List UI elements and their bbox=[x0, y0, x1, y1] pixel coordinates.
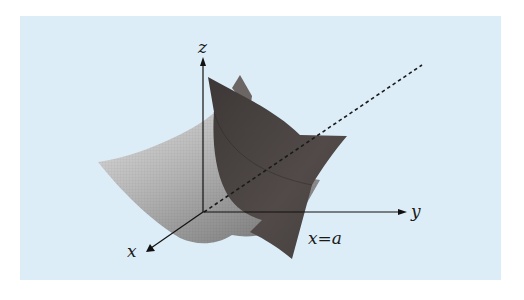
x-axis-arrowhead bbox=[146, 244, 155, 252]
z-axis-arrowhead bbox=[200, 57, 206, 66]
y-axis-arrowhead bbox=[398, 209, 407, 215]
3d-surface-diagram: z y x x=a bbox=[0, 0, 524, 300]
z-axis-label: z bbox=[197, 37, 208, 57]
x-axis-label: x bbox=[127, 241, 137, 261]
plane-label: x=a bbox=[308, 228, 342, 248]
y-axis-label: y bbox=[410, 201, 421, 221]
